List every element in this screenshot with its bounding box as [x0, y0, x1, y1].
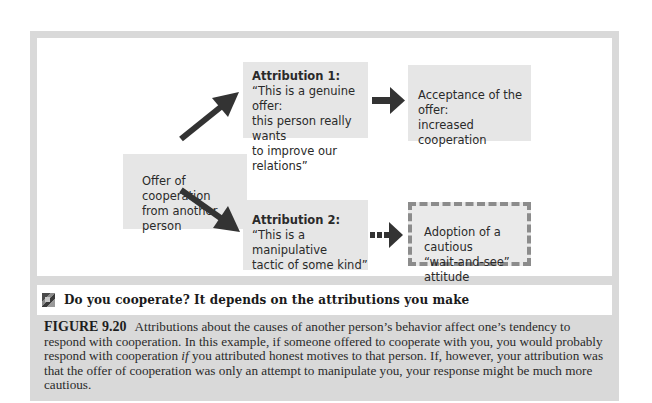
attribution-2-line-2: tactic of some kind” — [252, 258, 368, 273]
attribution-1-line-2: this person really wants — [252, 114, 368, 144]
outcome-2-box: Adoption of a cautious “wait-and-see” at… — [408, 202, 531, 266]
origin-line-2: from another person — [142, 204, 247, 234]
attribution-1-title: Attribution 1: — [252, 69, 368, 84]
outcome-1-box: Acceptance of the offer: increased coope… — [408, 65, 531, 141]
attribution-2-title: Attribution 2: — [252, 213, 368, 228]
attribution-2-line-1: “This is a manipulative — [252, 228, 368, 258]
origin-line-1: Offer of cooperation — [142, 174, 247, 204]
attribution-1-line-1: “This is a genuine offer: — [252, 84, 368, 114]
figure-caption: FIGURE 9.20Attributions about the causes… — [44, 320, 604, 393]
outcome-2-line-2: “wait-and-see” attitude — [424, 255, 527, 285]
figure-title: Do you cooperate? It depends on the attr… — [64, 293, 469, 307]
figure-title-bar: Do you cooperate? It depends on the attr… — [37, 285, 612, 315]
attribution-1-box: Attribution 1: “This is a genuine offer:… — [243, 62, 368, 138]
origin-box: Offer of cooperation from another person — [123, 154, 247, 229]
caption-italic: if — [181, 348, 188, 363]
figure-label: FIGURE 9.20 — [44, 319, 126, 334]
attribution-2-box: Attribution 2: “This is a manipulative t… — [243, 200, 368, 270]
outcome-2-line-1: Adoption of a cautious — [424, 225, 527, 255]
outcome-1-line-2: increased cooperation — [418, 118, 531, 148]
outcome-1-line-1: Acceptance of the offer: — [418, 88, 531, 118]
puzzle-icon — [42, 293, 55, 307]
attribution-1-line-3: to improve our relations” — [252, 144, 368, 174]
